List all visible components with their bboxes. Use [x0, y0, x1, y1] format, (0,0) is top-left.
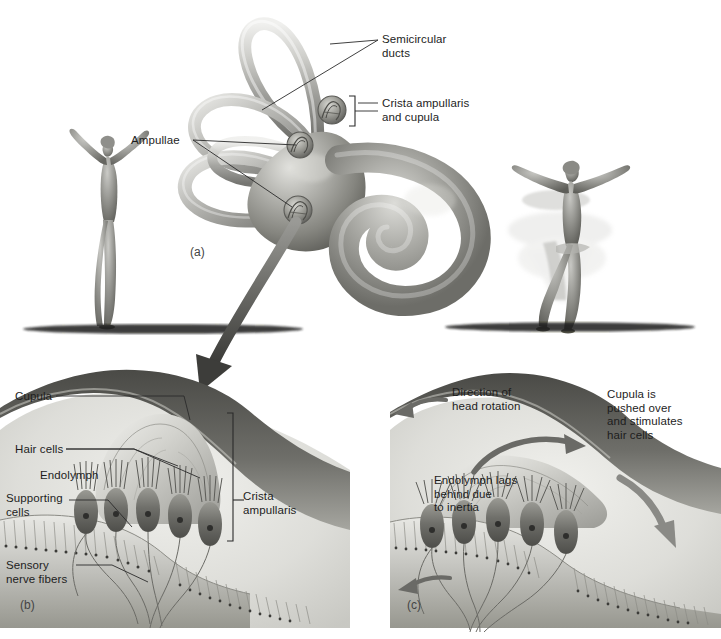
crista-bracket-b: [227, 413, 244, 541]
label-direction-of-head-rotation: Direction of head rotation: [452, 386, 520, 413]
panel-b-leaders: [56, 396, 200, 582]
ampulla-superior: [318, 96, 346, 124]
label-hair-cells: Hair cells: [15, 443, 63, 457]
ampulla-posterior: [284, 196, 312, 224]
label-semicircular-ducts: Semicircular ducts: [382, 33, 446, 60]
label-ampullae: Ampullae: [131, 134, 180, 148]
label-cupula-pushed-over: Cupula is pushed over and stimulates hai…: [607, 388, 683, 442]
panel-letter-b: (b): [20, 598, 35, 612]
label-crista-ampullaris: Crista ampullaris: [243, 490, 296, 517]
label-cupula: Cupula: [15, 390, 52, 404]
ampulla-lateral: [287, 132, 313, 158]
label-endolymph-lags: Endolymph lags behind due to inertia: [434, 474, 517, 515]
ampullae-artwork: [284, 96, 346, 224]
ground-shadows: [23, 322, 695, 333]
vestibular-figure: Semicircular ducts Crista ampullaris and…: [0, 0, 721, 639]
dancer-spinning-figure: [508, 161, 630, 334]
sensory-nerve-fibers-b: [73, 532, 210, 628]
sensory-nerve-fibers-c: [418, 542, 566, 632]
panel-letter-c: (c): [407, 598, 421, 612]
dancer-still-figure: [69, 129, 149, 330]
panel-a-leaders: [193, 40, 378, 207]
figure-artwork: [0, 0, 721, 639]
cochlea-artwork: [337, 153, 476, 301]
label-sensory-nerve-fibers: Sensory nerve fibers: [6, 559, 67, 586]
label-endolymph: Endolymph: [40, 469, 98, 483]
label-supporting-cells: Supporting cells: [6, 492, 63, 519]
semicircular-ducts-artwork: [183, 21, 318, 220]
magnification-arrow: [196, 222, 296, 392]
label-crista-ampullaris-and-cupula: Crista ampullaris and cupula: [382, 97, 469, 124]
panel-letter-a: (a): [190, 245, 205, 259]
vestibule-artwork: [247, 132, 365, 252]
